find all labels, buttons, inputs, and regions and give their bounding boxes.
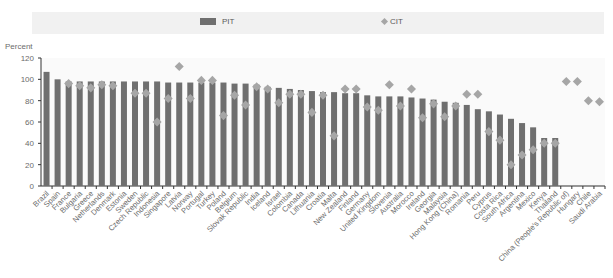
pit-bar [342,93,348,186]
pit-bar [408,97,414,186]
pit-bar [464,105,470,186]
pit-bar [121,81,127,186]
pit-bar [220,83,226,186]
pit-bar [265,87,271,186]
pit-bar [110,81,116,186]
pit-bar [154,81,160,186]
y-tick-label: 100 [21,75,35,84]
y-tick-label: 120 [21,54,35,63]
pit-bar [497,115,503,186]
pit-bar [431,100,437,186]
y-tick-label: 60 [25,118,34,127]
y-tick-label: 20 [25,161,34,170]
pit-bar [309,91,315,186]
pit-bar [298,90,304,186]
pit-bar [55,79,61,186]
pit-bar [287,89,293,186]
pit-bar [420,99,426,186]
y-tick-label: 0 [30,182,35,191]
pit-bar [386,96,392,186]
y-tick-label: 80 [25,97,34,106]
pit-bar [453,103,459,186]
pit-bar [475,109,481,186]
pit-bar [353,93,359,186]
pit-bar [508,119,514,186]
chart-plot: 020406080100120BrazilSpainFranceBulgaria… [0,0,613,278]
pit-bar [99,81,105,186]
pit-bar [66,81,72,186]
pit-bar [88,81,94,186]
pit-bar [77,81,83,186]
y-tick-label: 40 [25,139,34,148]
pit-bar [176,83,182,186]
pit-bar [320,92,326,186]
pit-bar [486,111,492,186]
pit-bar [44,72,50,186]
pit-bar [198,83,204,186]
pit-bar [254,85,260,186]
pit-bar [243,84,249,186]
pit-bar [530,127,536,186]
pit-bar [209,83,215,186]
